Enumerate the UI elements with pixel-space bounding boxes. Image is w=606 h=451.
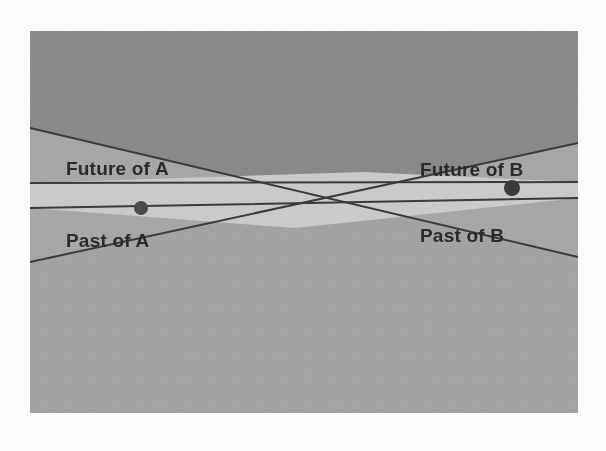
event-dot-a bbox=[134, 201, 148, 215]
light-cone-diagram: Future of A Past of A Future of B Past o… bbox=[0, 0, 606, 451]
label-past-of-a: Past of A bbox=[66, 230, 150, 251]
event-dot-b bbox=[504, 180, 520, 196]
cone-line-b-future-upper bbox=[30, 182, 578, 183]
figure-root: Future of A Past of A Future of B Past o… bbox=[0, 0, 606, 451]
label-future-of-a: Future of A bbox=[66, 158, 169, 179]
label-past-of-b: Past of B bbox=[420, 225, 504, 246]
label-future-of-b: Future of B bbox=[420, 159, 524, 180]
